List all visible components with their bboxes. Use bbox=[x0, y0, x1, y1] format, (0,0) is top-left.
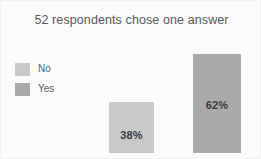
bar-value-label-no: 38% bbox=[109, 129, 154, 141]
bar-value-label-yes: 62% bbox=[193, 99, 241, 111]
bar-no[interactable]: 38% bbox=[109, 102, 154, 153]
bar-chart-figure: 52 respondents chose one answer No Yes 3… bbox=[0, 0, 261, 159]
bar-yes[interactable]: 62% bbox=[193, 54, 241, 153]
plot-area: 38% 62% bbox=[1, 1, 261, 159]
bar-rect-no: 38% bbox=[109, 102, 154, 153]
bar-rect-yes: 62% bbox=[193, 54, 241, 153]
